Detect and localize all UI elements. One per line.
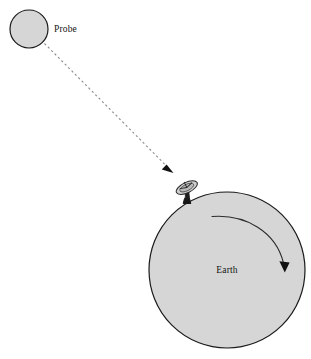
probe-label: Probe	[54, 24, 77, 34]
diagram-canvas: Earth Probe	[0, 0, 311, 359]
earth-group: Earth	[149, 192, 305, 348]
trajectory-dashed-line	[45, 44, 167, 166]
probe-circle	[10, 10, 48, 48]
trajectory-arrowhead-icon	[162, 165, 174, 173]
probe-trajectory-group	[45, 44, 174, 174]
probe-group: Probe	[10, 10, 77, 48]
spacecraft-earth-diagram: Earth Probe	[0, 0, 311, 359]
earth-label: Earth	[216, 265, 237, 275]
